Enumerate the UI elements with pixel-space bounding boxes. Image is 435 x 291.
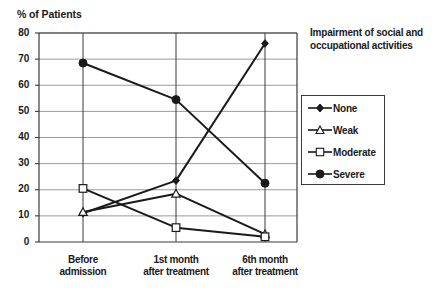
y-axis-tick-label: 80	[5, 27, 29, 38]
y-axis-tick-label: 20	[5, 183, 29, 194]
data-point-marker	[172, 224, 180, 232]
x-axis-tick-label-line: 6th month	[215, 254, 315, 266]
series-line	[83, 43, 265, 213]
series-severe	[79, 59, 269, 187]
y-axis-tick-label: 60	[5, 79, 29, 90]
y-axis-tick-label: 40	[5, 131, 29, 142]
line-chart: % of Patients Impairment of social and o…	[0, 0, 435, 291]
data-point-marker	[79, 59, 87, 67]
series-none	[80, 40, 269, 217]
x-axis-tick-label-line: 1st month	[126, 254, 226, 266]
x-axis-tick-label-line: admission	[33, 266, 133, 278]
y-axis-tick-label: 70	[5, 53, 29, 64]
x-axis-tick-label-line: after treatment	[215, 266, 315, 278]
x-axis-tick-label-line: after treatment	[126, 266, 226, 278]
x-axis-tick-label: Beforeadmission	[33, 254, 133, 278]
x-axis-tick-label: 1st monthafter treatment	[126, 254, 226, 278]
data-point-marker	[261, 233, 269, 241]
plot-area	[0, 0, 435, 291]
x-axis-tick-label: 6th monthafter treatment	[215, 254, 315, 278]
y-axis-tick-label: 10	[5, 209, 29, 220]
data-point-marker	[261, 179, 269, 187]
y-axis-tick-label: 50	[5, 105, 29, 116]
x-axis-tick-label-line: Before	[33, 254, 133, 266]
data-point-marker	[172, 96, 180, 104]
y-axis-tick-label: 30	[5, 157, 29, 168]
series-line	[83, 63, 265, 183]
data-point-marker	[79, 185, 87, 193]
y-axis-tick-label: 0	[5, 236, 29, 247]
